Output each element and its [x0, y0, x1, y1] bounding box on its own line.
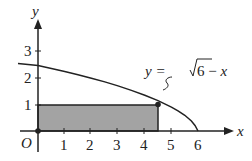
- y-tick-3: 3: [24, 43, 32, 59]
- x-tick-2: 2: [86, 137, 94, 153]
- x-tick-4: 4: [140, 137, 148, 153]
- intersection-point: [155, 102, 161, 108]
- y-axis-arrow-icon: [34, 19, 42, 29]
- eq-left: y =: [143, 63, 166, 79]
- x-tick-1: 1: [60, 137, 68, 153]
- function-graph: y x O 1 2 3 4 5 6 1 2 3 y = 6 − x: [0, 0, 252, 161]
- curve-label: y =: [143, 63, 166, 79]
- origin-label: O: [21, 135, 32, 151]
- x-tick-5: 5: [167, 137, 175, 153]
- x-tick-6: 6: [194, 137, 202, 153]
- x-tick-3: 3: [113, 137, 121, 153]
- shaded-rectangle: [38, 105, 158, 131]
- y-tick-2: 2: [24, 70, 32, 86]
- y-axis-label: y: [30, 3, 39, 19]
- origin-point: [35, 128, 41, 134]
- x-axis-label: x: [236, 123, 244, 139]
- y-tick-1: 1: [24, 97, 32, 113]
- x-axis-arrow-icon: [224, 127, 234, 135]
- eq-radicand: 6 − x: [197, 63, 227, 79]
